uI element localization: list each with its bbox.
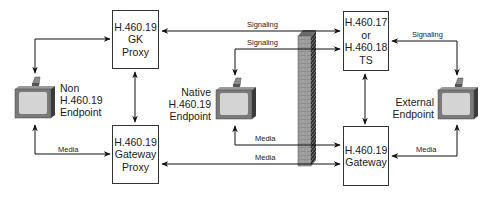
traversal-server-box: H.460.17 or H.460.18 TS (343, 11, 389, 71)
media-label-native: Media (255, 134, 275, 143)
gateway-proxy-line-3: Proxy (122, 161, 149, 174)
media-label-proxy: Media (255, 153, 275, 162)
native-endpoint-label: Native H.460.19 Endpoint (163, 86, 211, 122)
terminal-icon-native-endpoint (216, 78, 256, 119)
native-endpoint-line-1: Native (163, 86, 211, 98)
non-endpoint-line-2: H.460.19 (60, 94, 103, 106)
signaling-label-external: Signaling (412, 30, 443, 39)
external-endpoint-line-1: External (384, 96, 434, 108)
external-endpoint-line-2: Endpoint (384, 108, 434, 120)
firewall-icon (298, 30, 316, 166)
gateway-line-2: Gateway (345, 156, 386, 169)
gk-proxy-line-2: GK (128, 33, 143, 46)
external-endpoint-label: External Endpoint (384, 96, 434, 120)
terminal-icon-non-endpoint (15, 77, 55, 118)
ts-line-1: H.460.17 (345, 16, 388, 29)
gk-proxy-line-1: H.460.19 (114, 21, 157, 34)
signaling-label-second: Signaling (247, 38, 278, 47)
gk-proxy-line-3: Proxy (122, 46, 149, 59)
non-endpoint-label: Non H.460.19 Endpoint (60, 82, 103, 118)
ts-line-3: H.460.18 (345, 41, 388, 54)
media-label-non-endpoint: Media (58, 145, 78, 154)
gateway-proxy-box: H.460.19 Gateway Proxy (112, 125, 159, 184)
non-endpoint-line-1: Non (60, 82, 103, 94)
gk-proxy-box: H.460.19 GK Proxy (112, 10, 159, 69)
gateway-proxy-line-2: Gateway (115, 148, 156, 161)
network-diagram: H.460.19 GK Proxy H.460.19 Gateway Proxy… (0, 0, 491, 199)
native-endpoint-line-2: H.460.19 (163, 98, 211, 110)
ts-line-2: or (361, 29, 370, 42)
gateway-line-1: H.460.19 (345, 144, 388, 157)
ts-line-4: TS (359, 54, 372, 67)
gateway-proxy-line-1: H.460.19 (114, 136, 157, 149)
media-label-external: Media (416, 145, 436, 154)
gateway-box: H.460.19 Gateway (343, 126, 389, 186)
native-endpoint-line-3: Endpoint (163, 110, 211, 122)
non-endpoint-line-3: Endpoint (60, 106, 103, 118)
signaling-label-top: Signaling (247, 20, 278, 29)
terminal-icon-external-endpoint (438, 78, 478, 119)
